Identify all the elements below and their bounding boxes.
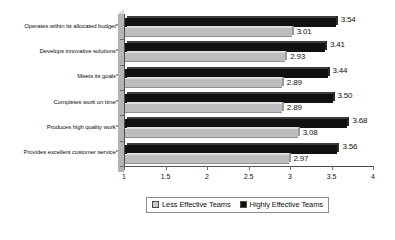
value-axis-tick bbox=[332, 166, 333, 170]
bar-value-label-highly-effective: 3.41 bbox=[330, 40, 345, 49]
bar-body bbox=[125, 28, 292, 37]
bar-less-effective bbox=[125, 79, 282, 88]
category-axis-label: Develops innovative solutions* bbox=[40, 48, 118, 54]
value-axis-tick-label: 4 bbox=[371, 173, 375, 180]
category-axis-label: Completes work on time* bbox=[54, 99, 118, 105]
value-axis-tick bbox=[124, 166, 125, 170]
bar-side-face bbox=[282, 102, 284, 111]
legend-item[interactable]: Highly Effective Teams bbox=[240, 200, 323, 209]
bar-value-label-less-effective: 2.97 bbox=[294, 154, 309, 163]
bar-side-face bbox=[282, 77, 284, 86]
bar-value-label-highly-effective: 3.56 bbox=[342, 142, 357, 151]
legend-swatch-icon bbox=[152, 201, 159, 208]
bar-side-face bbox=[336, 16, 338, 25]
value-axis-tick-label: 2.5 bbox=[244, 173, 253, 180]
bar-chart: 11.522.533.54 3.543.013.412.933.442.893.… bbox=[0, 0, 395, 240]
bar-value-label-less-effective: 3.08 bbox=[303, 128, 318, 137]
category-axis-tick bbox=[120, 39, 124, 40]
bar-value-label-highly-effective: 3.54 bbox=[341, 15, 356, 24]
bar-less-effective bbox=[125, 53, 285, 62]
bar-side-face bbox=[347, 117, 349, 126]
bar-value-label-less-effective: 3.01 bbox=[297, 27, 312, 36]
bar-value-label-less-effective: 2.93 bbox=[290, 52, 305, 61]
category-axis-label: Produces high quality work* bbox=[47, 124, 118, 130]
bar-side-face bbox=[298, 127, 300, 136]
value-axis-tick bbox=[249, 166, 250, 170]
legend-item-label: Highly Effective Teams bbox=[250, 200, 323, 209]
bar-side-face bbox=[333, 92, 335, 101]
value-axis-tick bbox=[207, 166, 208, 170]
value-axis-tick bbox=[166, 166, 167, 170]
bar-body bbox=[125, 79, 282, 88]
value-axis-tick bbox=[373, 166, 374, 170]
category-axis-label: Operates within its allocated budget* bbox=[24, 23, 118, 29]
category-axis-tick bbox=[120, 90, 124, 91]
value-axis-tick-label: 3 bbox=[288, 173, 292, 180]
value-axis-tick-label: 1.5 bbox=[161, 173, 170, 180]
bar-side-face bbox=[285, 51, 287, 60]
bar-body bbox=[125, 53, 285, 62]
bar-value-label-less-effective: 2.89 bbox=[287, 78, 302, 87]
category-axis-tick bbox=[120, 141, 124, 142]
bar-side-face bbox=[289, 153, 291, 162]
bar-body bbox=[125, 129, 298, 138]
legend-swatch-icon bbox=[240, 201, 247, 208]
category-axis-label: Meets its goals* bbox=[77, 73, 118, 79]
bar-body bbox=[125, 104, 282, 113]
bar-less-effective bbox=[125, 129, 298, 138]
bar-side-face bbox=[292, 26, 294, 35]
bar-less-effective bbox=[125, 104, 282, 113]
bar-side-face bbox=[337, 143, 339, 152]
bar-value-label-highly-effective: 3.50 bbox=[338, 91, 353, 100]
legend-item-label: Less Effective Teams bbox=[162, 200, 231, 209]
value-axis-tick-label: 1 bbox=[122, 173, 126, 180]
bar-body bbox=[125, 155, 289, 164]
chart-legend: Less Effective TeamsHighly Effective Tea… bbox=[146, 197, 329, 213]
value-axis-tick bbox=[290, 166, 291, 170]
bar-value-label-less-effective: 2.89 bbox=[287, 103, 302, 112]
category-axis-tick bbox=[120, 115, 124, 116]
category-axis-label: Provides excellent customer service* bbox=[24, 149, 118, 155]
bar-value-label-highly-effective: 3.68 bbox=[352, 116, 367, 125]
plot-area: 11.522.533.54 3.543.013.412.933.442.893.… bbox=[124, 14, 373, 166]
value-axis-tick-label: 3.5 bbox=[327, 173, 336, 180]
bar-less-effective bbox=[125, 28, 292, 37]
bar-side-face bbox=[328, 67, 330, 76]
legend-item[interactable]: Less Effective Teams bbox=[152, 200, 231, 209]
bar-side-face bbox=[325, 41, 327, 50]
bar-less-effective bbox=[125, 155, 289, 164]
value-axis-tick-label: 2 bbox=[205, 173, 209, 180]
category-axis-tick bbox=[120, 65, 124, 66]
category-axis-tick bbox=[120, 166, 124, 167]
bar-value-label-highly-effective: 3.44 bbox=[333, 66, 348, 75]
